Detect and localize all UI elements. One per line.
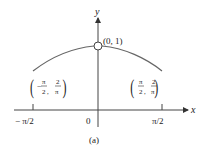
svg-text:2: 2 [42, 88, 46, 96]
point-label-top: (0, 1) [103, 36, 123, 46]
svg-text:): ) [62, 76, 66, 99]
svg-text:,: , [144, 88, 146, 96]
point-label-left: ( − π 2 , 2 π ) [30, 76, 66, 99]
tick-label-neg-pi-2: − π/2 [15, 116, 34, 126]
svg-text:,: , [47, 88, 49, 96]
tick-label-pi-2: π/2 [152, 116, 164, 126]
tick-label-zero: 0 [86, 116, 91, 126]
diagram-canvas: y x − π/2 0 π/2 (0, 1) ( − π 2 , 2 π ) (… [0, 0, 209, 163]
svg-text:2: 2 [139, 88, 143, 96]
x-axis-label: x [190, 104, 196, 115]
y-axis-label: y [94, 6, 100, 17]
svg-text:(: ( [30, 76, 34, 99]
svg-text:π: π [42, 78, 46, 86]
svg-text:π: π [139, 78, 143, 86]
open-circle-hole [94, 42, 102, 50]
svg-text:2: 2 [56, 78, 60, 86]
figure-caption: (a) [89, 135, 99, 145]
point-label-right: ( π 2 , 2 π ) [130, 76, 158, 99]
svg-text:): ) [154, 76, 158, 99]
svg-text:π: π [55, 88, 59, 96]
svg-text:(: ( [130, 76, 134, 99]
